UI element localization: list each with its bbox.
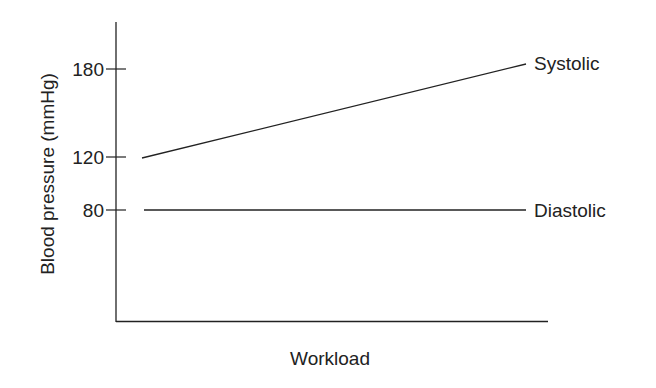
y-axis-label: Blood pressure (mmHg) [37, 73, 58, 275]
tick-label-120: 120 [72, 147, 104, 168]
tick-label-80: 80 [83, 200, 104, 221]
x-axis-label: Workload [290, 348, 370, 369]
blood-pressure-chart: 180 120 80 Blood pressure (mmHg) Systoli… [0, 0, 656, 388]
systolic-label: Systolic [534, 53, 599, 74]
diastolic-label: Diastolic [534, 200, 606, 221]
tick-label-180: 180 [72, 59, 104, 80]
chart-canvas: 180 120 80 Blood pressure (mmHg) Systoli… [0, 0, 656, 388]
systolic-line [142, 64, 526, 158]
